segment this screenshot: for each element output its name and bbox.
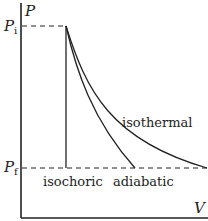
adiabatic-curve [66, 26, 135, 168]
isochoric-label: isochoric [43, 174, 103, 189]
isothermal-label: isothermal [122, 115, 192, 130]
pv-diagram: P V Pi Pf isothermal adiabatic isochoric [0, 0, 208, 221]
adiabatic-label: adiabatic [113, 174, 174, 189]
x-axis-label: V [194, 199, 207, 217]
y-axis-label: P [24, 2, 36, 20]
isothermal-curve [66, 26, 207, 168]
final-pressure-label: Pf [3, 158, 19, 177]
initial-pressure-label: Pi [3, 17, 17, 36]
